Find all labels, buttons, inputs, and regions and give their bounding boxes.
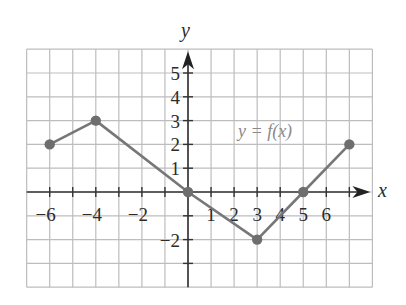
y-axis-label: y bbox=[179, 19, 190, 42]
x-tick-label: 3 bbox=[252, 204, 262, 225]
data-series bbox=[45, 115, 355, 244]
x-axis-label: x bbox=[377, 179, 387, 201]
data-point bbox=[252, 234, 262, 244]
x-tick-label: −2 bbox=[128, 204, 148, 225]
tick-labels: −6−4−212345654321−2 bbox=[36, 63, 331, 251]
y-tick-label: 4 bbox=[171, 87, 181, 108]
y-tick-label: 2 bbox=[171, 134, 181, 155]
data-point bbox=[45, 139, 55, 149]
y-tick-label: 5 bbox=[171, 63, 181, 84]
function-graph: −6−4−212345654321−2 x y y = f(x) bbox=[0, 0, 406, 305]
axes bbox=[27, 51, 371, 287]
x-tick-label: −6 bbox=[36, 204, 56, 225]
data-point bbox=[91, 115, 101, 125]
data-point bbox=[344, 139, 354, 149]
y-tick-label: 1 bbox=[171, 158, 181, 179]
y-tick-label: −2 bbox=[160, 230, 180, 251]
x-tick-label: −4 bbox=[82, 204, 103, 225]
x-tick-label: 6 bbox=[322, 204, 332, 225]
function-label: y = f(x) bbox=[236, 121, 292, 142]
x-tick-label: 5 bbox=[299, 204, 309, 225]
data-point bbox=[298, 187, 308, 197]
grid bbox=[27, 49, 373, 287]
data-point bbox=[183, 187, 193, 197]
y-tick-label: 3 bbox=[171, 111, 181, 132]
